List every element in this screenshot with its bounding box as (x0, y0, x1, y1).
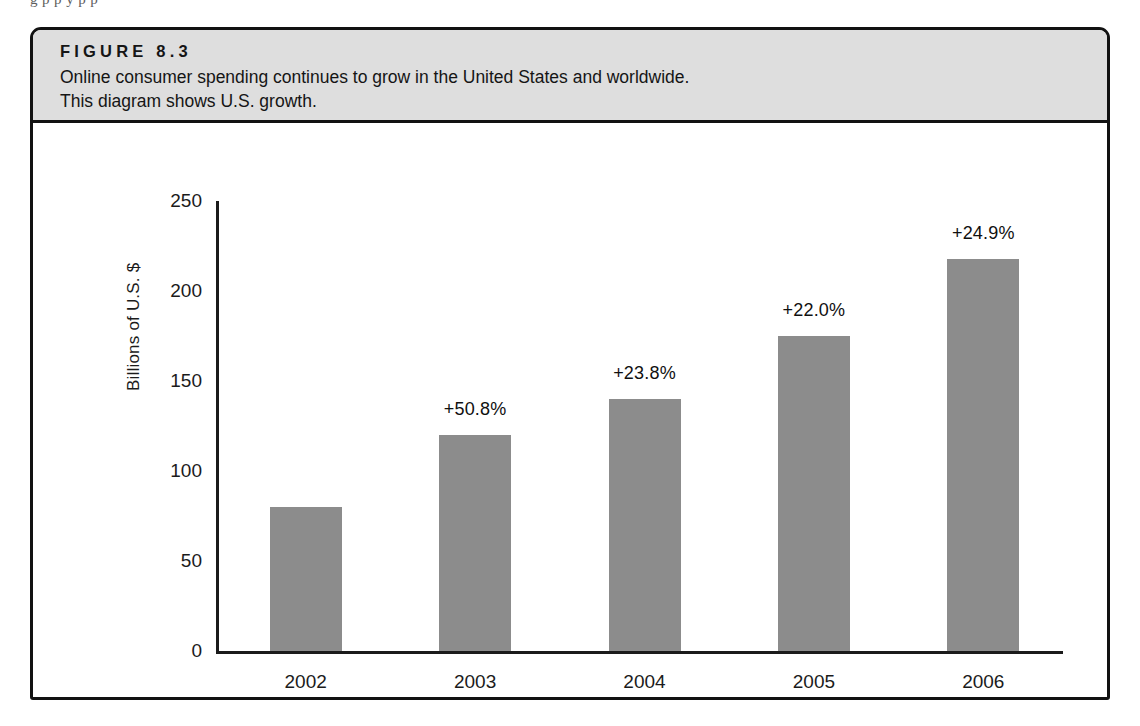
chart-area: Billions of U.S. $ 050100150200250 +50.8… (33, 123, 1107, 697)
x-axis-tick-label: 2004 (623, 671, 665, 693)
x-axis-tick-label: 2002 (285, 671, 327, 693)
y-axis-tick-label: 50 (181, 550, 202, 572)
bar-annotation: +24.9% (952, 223, 1015, 244)
plot-region: 050100150200250 +50.8%+23.8%+22.0%+24.9%… (216, 201, 1063, 654)
bar (778, 336, 850, 651)
figure-box: FIGURE 8.3 Online consumer spending cont… (30, 27, 1110, 700)
x-axis-tick-label: 2003 (454, 671, 496, 693)
x-axis-tick-label: 2006 (962, 671, 1004, 693)
figure-label: FIGURE 8.3 (60, 41, 1107, 62)
y-axis-tick-label: 0 (191, 640, 202, 662)
bar (439, 435, 511, 651)
figure-caption-band: FIGURE 8.3 Online consumer spending cont… (33, 30, 1107, 123)
bar (947, 259, 1019, 651)
bar (270, 507, 342, 651)
x-axis-line (216, 651, 1063, 654)
figure-description: Online consumer spending continues to gr… (60, 65, 1107, 113)
y-axis-title: Billions of U.S. $ (124, 211, 144, 391)
figure-description-line-2: This diagram shows U.S. growth. (60, 89, 1107, 113)
y-axis-tick-label: 250 (170, 190, 202, 212)
y-axis-tick-label: 100 (170, 460, 202, 482)
y-axis-tick-label: 200 (170, 280, 202, 302)
y-axis-line (216, 201, 219, 654)
page-bleed-text: g p p y p p (30, 0, 1120, 7)
bar-annotation: +22.0% (783, 300, 846, 321)
x-axis-tick-label: 2005 (793, 671, 835, 693)
bar-annotation: +23.8% (613, 363, 676, 384)
bar (609, 399, 681, 651)
y-axis-tick-label: 150 (170, 370, 202, 392)
bar-annotation: +50.8% (444, 399, 507, 420)
figure-description-line-1: Online consumer spending continues to gr… (60, 65, 1107, 89)
